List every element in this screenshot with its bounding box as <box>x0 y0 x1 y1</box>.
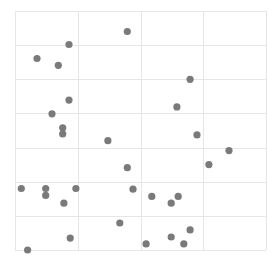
data-point <box>129 186 136 193</box>
data-point <box>60 200 67 207</box>
data-points <box>18 28 233 254</box>
data-point <box>116 219 123 226</box>
data-point <box>18 185 25 192</box>
data-point <box>205 161 212 168</box>
data-point <box>59 130 66 137</box>
data-point <box>180 240 187 247</box>
data-point <box>175 193 182 200</box>
data-point <box>168 200 175 207</box>
data-point <box>24 246 31 253</box>
data-point <box>33 55 40 62</box>
data-point <box>124 164 131 171</box>
data-point <box>55 62 62 69</box>
data-point <box>104 137 111 144</box>
data-point <box>193 131 200 138</box>
data-point <box>67 235 74 242</box>
data-point <box>124 28 131 35</box>
data-point <box>72 185 79 192</box>
data-point <box>148 193 155 200</box>
data-point <box>187 76 194 83</box>
data-point <box>65 97 72 104</box>
data-point <box>143 240 150 247</box>
data-point <box>187 226 194 233</box>
chart-canvas <box>0 0 278 267</box>
data-point <box>42 185 49 192</box>
data-point <box>168 233 175 240</box>
data-point <box>173 103 180 110</box>
data-point <box>48 110 55 117</box>
data-point <box>42 192 49 199</box>
gridlines <box>15 11 267 251</box>
data-point <box>225 147 232 154</box>
data-point <box>65 41 72 48</box>
scatter-chart <box>0 0 278 267</box>
